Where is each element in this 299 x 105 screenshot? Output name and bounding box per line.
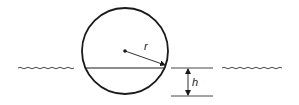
- radius-arrow: [125, 51, 165, 65]
- water-surface-left-wave: [18, 67, 74, 69]
- diagram-canvas: r h: [0, 0, 299, 105]
- depth-label: h: [192, 76, 198, 88]
- water-surface-right-wave: [222, 67, 282, 69]
- radius-label: r: [144, 40, 149, 52]
